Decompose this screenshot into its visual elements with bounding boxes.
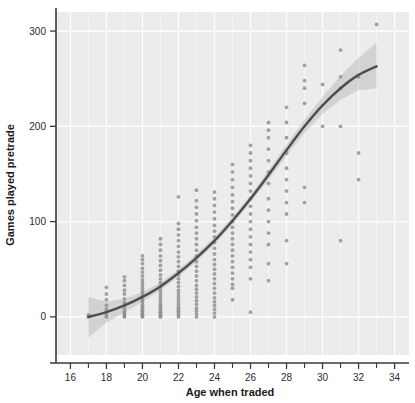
data-point <box>159 277 163 281</box>
data-point <box>177 281 181 285</box>
data-point <box>141 274 145 278</box>
data-point <box>249 143 253 147</box>
data-point <box>159 268 163 272</box>
data-point <box>285 166 289 170</box>
x-axis-tick-label: 24 <box>209 372 221 383</box>
data-point <box>321 83 325 87</box>
data-point <box>195 225 199 229</box>
data-point <box>159 254 163 258</box>
data-point <box>213 229 217 233</box>
data-point <box>303 63 307 67</box>
data-point <box>249 310 253 314</box>
data-point <box>195 269 199 273</box>
data-point <box>195 295 199 299</box>
data-point <box>195 299 199 303</box>
data-point <box>177 227 181 231</box>
data-point <box>213 272 217 276</box>
data-point <box>231 248 235 252</box>
data-point <box>195 284 199 288</box>
data-point <box>195 291 199 295</box>
data-point <box>105 285 109 289</box>
data-point <box>285 262 289 266</box>
data-point <box>141 266 145 270</box>
data-point <box>177 277 181 281</box>
data-point <box>231 254 235 258</box>
data-point <box>213 210 217 214</box>
data-point <box>195 205 199 209</box>
data-point <box>231 178 235 182</box>
data-point <box>267 243 271 247</box>
data-point <box>249 250 253 254</box>
data-point <box>177 264 181 268</box>
data-point <box>213 311 217 315</box>
data-point <box>249 227 253 231</box>
data-point <box>177 195 181 199</box>
x-axis-tick-label: 18 <box>101 372 113 383</box>
data-point <box>249 235 253 239</box>
data-point <box>213 304 217 308</box>
data-point <box>195 243 199 247</box>
y-axis-tick-label: 200 <box>29 121 46 132</box>
data-point <box>249 258 253 262</box>
data-point <box>285 105 289 109</box>
data-point <box>285 212 289 216</box>
data-point <box>195 237 199 241</box>
data-point <box>213 315 217 319</box>
data-point <box>231 213 235 217</box>
data-point <box>177 250 181 254</box>
x-axis-tick-label: 22 <box>173 372 185 383</box>
data-point <box>303 102 307 106</box>
data-point <box>285 136 289 140</box>
data-point <box>123 275 127 279</box>
data-point <box>375 22 379 26</box>
data-point <box>195 219 199 223</box>
data-point <box>339 48 343 52</box>
data-point <box>267 208 271 212</box>
data-point <box>159 237 163 241</box>
data-point <box>213 286 217 290</box>
data-point <box>249 220 253 224</box>
data-point <box>159 281 163 285</box>
data-point <box>141 262 145 266</box>
data-point <box>195 199 199 203</box>
data-point <box>249 189 253 193</box>
data-point <box>231 260 235 264</box>
data-point <box>267 128 271 132</box>
data-point <box>213 267 217 271</box>
data-point <box>177 222 181 226</box>
data-point <box>339 124 343 128</box>
data-point <box>159 259 163 263</box>
data-point <box>231 206 235 210</box>
data-point <box>231 237 235 241</box>
data-point <box>321 124 325 128</box>
x-axis-tick-label: 26 <box>245 372 257 383</box>
y-axis-title: Games played pretrade <box>4 124 16 246</box>
x-axis-tick-label: 30 <box>317 372 329 383</box>
data-point <box>177 285 181 289</box>
data-point <box>105 304 109 308</box>
data-point <box>231 271 235 275</box>
data-point <box>177 255 181 259</box>
data-point <box>267 231 271 235</box>
data-point <box>213 291 217 295</box>
data-point <box>123 288 127 292</box>
data-point <box>231 225 235 229</box>
data-point <box>213 258 217 262</box>
data-point <box>213 296 217 300</box>
data-point <box>249 265 253 269</box>
x-axis-tick-label: 32 <box>353 372 365 383</box>
data-point <box>177 233 181 237</box>
data-point <box>141 278 145 282</box>
data-point <box>249 212 253 216</box>
data-point <box>231 200 235 204</box>
data-point <box>123 284 127 288</box>
y-axis-tick-label: 0 <box>40 311 46 322</box>
data-point <box>123 279 127 283</box>
data-point <box>105 298 109 302</box>
data-point <box>177 244 181 248</box>
data-point <box>267 262 271 266</box>
data-point <box>141 270 145 274</box>
data-point <box>267 197 271 201</box>
x-axis-title: Age when traded <box>186 386 275 398</box>
data-point <box>231 265 235 269</box>
